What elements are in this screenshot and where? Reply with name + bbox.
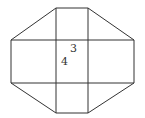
label-width-3: 3 <box>70 42 77 55</box>
octagon-outline <box>11 8 134 113</box>
octagon-net-diagram: 3 4 <box>0 0 145 118</box>
label-height-4: 4 <box>61 55 68 68</box>
